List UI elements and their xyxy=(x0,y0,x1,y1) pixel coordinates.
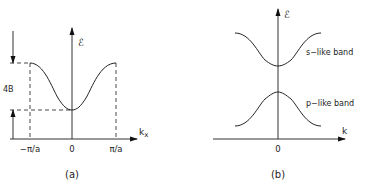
panel-a: 4B ℰ kx −π/a 0 π/a (a) xyxy=(3,28,148,180)
tight-binding-band-curve xyxy=(30,63,116,110)
panel-b-k-label: k xyxy=(342,126,348,136)
panel-a-caption: (a) xyxy=(65,169,79,180)
panel-a-kx-label: kx xyxy=(139,127,148,139)
panel-a-energy-label: ℰ xyxy=(78,37,84,48)
tick-label-pi-a: π/a xyxy=(109,144,122,154)
band-structure-figure: 4B ℰ kx −π/a 0 π/a (a) ℰ s−like band p−l… xyxy=(0,0,369,186)
panel-b-caption: (b) xyxy=(271,169,285,180)
tick-label-zero-b: 0 xyxy=(275,144,280,154)
panel-b: ℰ s−like band p−like band k 0 (b) xyxy=(213,9,354,180)
tick-label-neg-pi-a: −π/a xyxy=(20,144,40,154)
bandwidth-label: 4B xyxy=(3,85,14,94)
panel-b-energy-label: ℰ xyxy=(284,9,290,20)
s-like-band-label: s−like band xyxy=(306,48,353,57)
tick-label-zero-a: 0 xyxy=(69,144,74,154)
p-like-band-label: p−like band xyxy=(306,99,354,108)
